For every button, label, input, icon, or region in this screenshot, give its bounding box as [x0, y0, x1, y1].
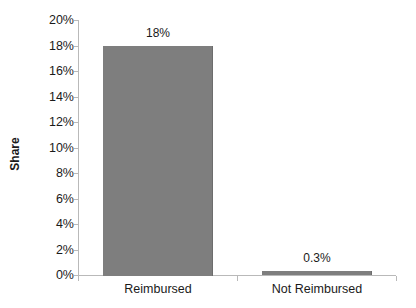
y-axis-line	[78, 20, 79, 276]
x-category-label: Reimbursed	[124, 282, 191, 296]
bar	[262, 271, 372, 275]
y-tick-label: 20%	[30, 14, 74, 27]
y-tick-label: 8%	[30, 167, 74, 180]
y-tick-label: 18%	[30, 39, 74, 52]
y-tick-label: 0%	[30, 269, 74, 282]
bar-value-label: 0.3%	[303, 251, 330, 265]
bar-chart: Share 0%2%4%6%8%10%12%14%16%18%20% 18%0.…	[0, 0, 416, 308]
y-tick-label: 12%	[30, 116, 74, 129]
y-tick-label: 2%	[30, 243, 74, 256]
y-tick-label: 10%	[30, 141, 74, 154]
bar	[103, 46, 213, 276]
x-category-label: Not Reimbursed	[272, 282, 362, 296]
y-tick-label: 4%	[30, 218, 74, 231]
y-axis-title-text: Share	[8, 137, 22, 170]
x-tick-mark	[78, 276, 79, 281]
bar-value-label: 18%	[146, 26, 170, 40]
y-tick-label: 14%	[30, 90, 74, 103]
y-tick-label: 6%	[30, 192, 74, 205]
y-axis-title: Share	[2, 0, 28, 308]
x-tick-mark	[396, 276, 397, 281]
x-tick-mark	[237, 276, 238, 281]
y-tick-label: 16%	[30, 65, 74, 78]
y-axis-tick-labels: 0%2%4%6%8%10%12%14%16%18%20%	[28, 0, 74, 308]
